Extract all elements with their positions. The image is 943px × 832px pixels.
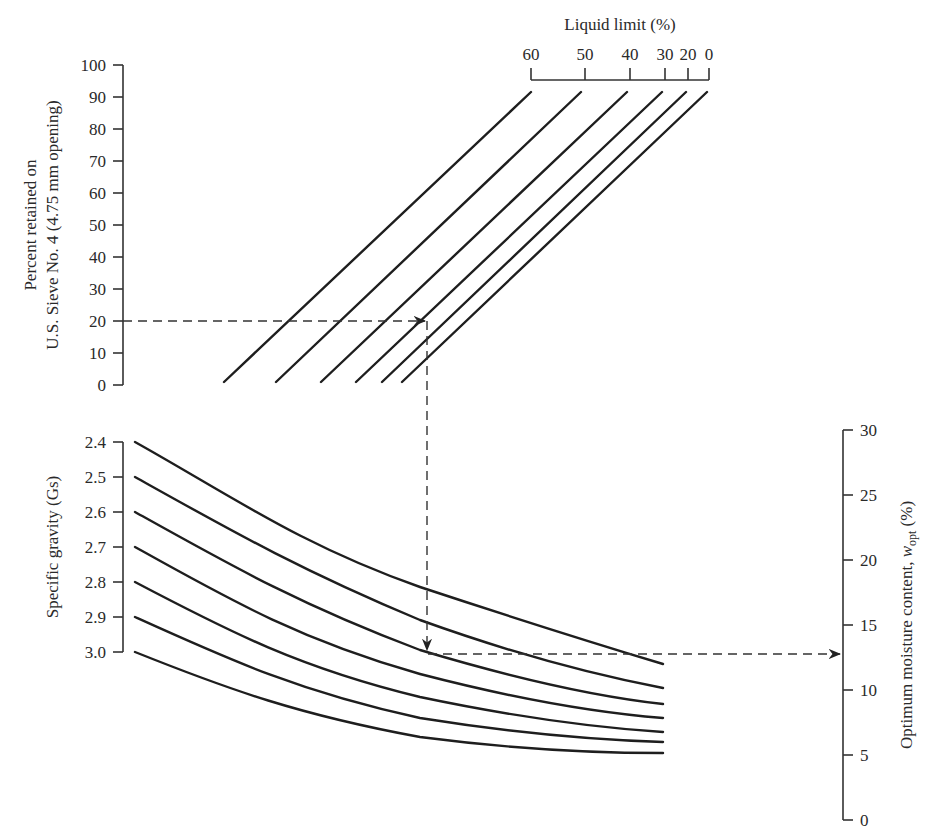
upper-tick-label: 70	[89, 152, 106, 171]
gs-tick-label: 3.0	[85, 643, 106, 662]
gs-curve-2.9	[135, 617, 663, 742]
specific-gravity-curves	[135, 442, 663, 753]
upper-left-axis: 0102030405060708090100	[81, 56, 124, 395]
w-opt-title: Optimum moisture content, wopt (%)	[897, 501, 919, 749]
ll-tick-label: 30	[657, 45, 674, 64]
right-axis: 051015202530	[843, 421, 877, 830]
nomograph-chart: 0102030405060708090100 Percent retained …	[0, 0, 943, 832]
ll-line-60	[224, 92, 531, 382]
w-opt-tick-label: 15	[860, 616, 877, 635]
upper-tick-label: 80	[89, 120, 106, 139]
liquid-limit-title: Liquid limit (%)	[564, 15, 675, 34]
ll-line-40	[321, 92, 627, 382]
gs-curve-2.5	[135, 477, 663, 688]
gs-curve-2.6	[135, 512, 663, 704]
ll-tick-label: 50	[577, 45, 594, 64]
upper-tick-label: 40	[89, 248, 106, 267]
gs-tick-label: 2.8	[85, 573, 106, 592]
w-opt-tick-label: 0	[860, 811, 869, 830]
w-opt-tick-label: 5	[860, 746, 869, 765]
liquid-limit-axis: Liquid limit (%) 60504030200	[523, 15, 714, 80]
gs-curve-2.4	[135, 442, 663, 664]
liquid-limit-lines	[224, 92, 707, 382]
w-opt-tick-label: 30	[860, 421, 877, 440]
upper-tick-label: 90	[89, 88, 106, 107]
ll-tick-label: 0	[705, 45, 714, 64]
upper-axis-title: Percent retained on U.S. Sieve No. 4 (4.…	[21, 100, 62, 349]
lower-left-axis: 2.42.52.62.72.82.93.0	[85, 433, 123, 662]
upper-tick-label: 100	[81, 56, 107, 75]
upper-ylabel-line2: U.S. Sieve No. 4 (4.75 mm opening)	[43, 100, 62, 349]
gs-tick-label: 2.6	[85, 503, 106, 522]
upper-tick-label: 20	[89, 312, 106, 331]
ll-line-30	[356, 92, 662, 382]
upper-tick-label: 50	[89, 216, 106, 235]
gs-tick-label: 2.4	[85, 433, 107, 452]
upper-ylabel-line1: Percent retained on	[21, 159, 40, 291]
w-opt-tick-label: 25	[860, 486, 877, 505]
specific-gravity-title: Specific gravity (Gs)	[43, 476, 62, 619]
upper-tick-label: 10	[89, 344, 106, 363]
ll-line-0	[402, 92, 707, 382]
gs-tick-label: 2.9	[85, 608, 106, 627]
ll-tick-label: 40	[622, 45, 639, 64]
ll-tick-label: 20	[680, 45, 697, 64]
gs-tick-label: 2.7	[85, 538, 107, 557]
example-path	[123, 321, 840, 654]
gs-tick-label: 2.5	[85, 468, 106, 487]
upper-tick-label: 30	[89, 280, 106, 299]
upper-tick-label: 0	[98, 376, 107, 395]
w-opt-tick-label: 10	[860, 681, 877, 700]
w-opt-tick-label: 20	[860, 551, 877, 570]
ll-tick-label: 60	[523, 45, 540, 64]
upper-tick-label: 60	[89, 184, 106, 203]
